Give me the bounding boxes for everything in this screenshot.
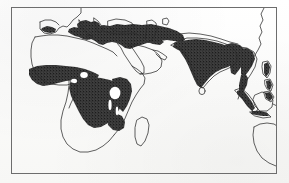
distribution-map-figure [0, 0, 289, 183]
map-border-frame [11, 7, 277, 174]
